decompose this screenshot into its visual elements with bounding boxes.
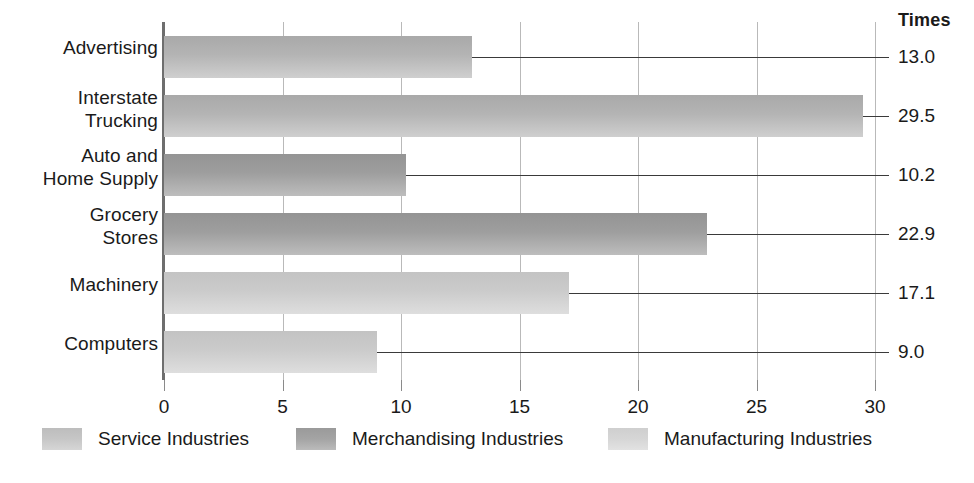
x-tick-label-15: 15 (509, 396, 530, 418)
category-label-grocery-stores: Grocery Stores (90, 203, 158, 249)
category-label-machinery: Machinery (69, 273, 158, 296)
legend-item-merchandising-industries[interactable]: Merchandising Industries (296, 424, 563, 454)
value-label-advertising: 13.0 (898, 46, 964, 68)
value-label-grocery-stores: 22.9 (898, 223, 964, 245)
value-label-auto-and-home-supply: 10.2 (898, 164, 964, 186)
bar-advertising (164, 36, 472, 78)
legend-label-merchandising-industries: Merchandising Industries (352, 428, 563, 450)
leader-line-auto-and-home-supply (406, 175, 889, 176)
tick-mark-15 (520, 380, 521, 391)
value-label-machinery: 17.1 (898, 282, 964, 304)
x-tick-label-0: 0 (159, 396, 170, 418)
gridline-20 (638, 22, 639, 380)
gridline-25 (757, 22, 758, 380)
tick-mark-5 (283, 380, 284, 391)
tick-mark-10 (401, 380, 402, 391)
category-label-advertising: Advertising (63, 36, 158, 59)
value-label-interstate-trucking: 29.5 (898, 105, 964, 127)
x-tick-label-10: 10 (390, 396, 411, 418)
x-tick-label-25: 25 (746, 396, 767, 418)
x-tick-label-20: 20 (627, 396, 648, 418)
bar-chart: Times Advertising Interstate Trucking Au… (0, 0, 974, 483)
bar-computers (164, 331, 377, 373)
legend-item-service-industries[interactable]: Service Industries (42, 424, 249, 454)
bar-machinery (164, 272, 569, 314)
category-label-interstate-trucking: Interstate Trucking (78, 86, 158, 132)
category-label-auto-and-home-supply: Auto and Home Supply (43, 144, 158, 190)
leader-line-interstate-trucking (863, 116, 889, 117)
tick-mark-20 (638, 380, 639, 391)
legend-item-manufacturing-industries[interactable]: Manufacturing Industries (608, 424, 872, 454)
x-tick-label-5: 5 (277, 396, 288, 418)
bar-grocery-stores (164, 213, 707, 255)
x-tick-label-30: 30 (864, 396, 885, 418)
value-label-computers: 9.0 (898, 341, 964, 363)
chart-legend: Service Industries Merchandising Industr… (0, 424, 974, 458)
category-label-computers: Computers (64, 332, 158, 355)
tick-mark-30 (875, 380, 876, 391)
value-column-header: Times (898, 10, 951, 31)
tick-mark-25 (757, 380, 758, 391)
leader-line-computers (377, 352, 889, 353)
leader-line-advertising (472, 57, 889, 58)
leader-line-grocery-stores (707, 234, 889, 235)
legend-swatch-service-icon (42, 428, 82, 450)
gridline-30 (875, 22, 876, 380)
leader-line-machinery (569, 293, 889, 294)
tick-mark-0 (164, 380, 165, 391)
legend-swatch-manufacturing-icon (608, 428, 648, 450)
legend-label-service-industries: Service Industries (98, 428, 249, 450)
bar-auto-and-home-supply (164, 154, 406, 196)
legend-label-manufacturing-industries: Manufacturing Industries (664, 428, 872, 450)
plot-area: 0 5 10 15 20 25 30 (164, 22, 875, 380)
bar-interstate-trucking (164, 95, 863, 137)
gridline-15 (520, 22, 521, 380)
legend-swatch-merchandising-icon (296, 428, 336, 450)
